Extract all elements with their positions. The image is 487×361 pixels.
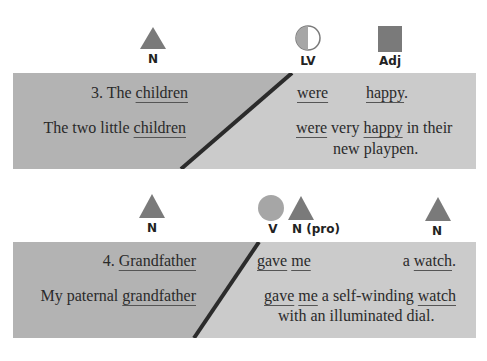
noun-watch: watch xyxy=(418,287,456,304)
verb-gave: gave xyxy=(257,252,287,269)
verb-circle-icon xyxy=(257,194,285,222)
example-3-predicate-long: were very happy in their xyxy=(296,119,452,137)
linking-verb-half-circle-icon xyxy=(294,24,322,52)
example-4-predicate-short: gave me xyxy=(257,252,311,270)
example-3-predicate-short: were xyxy=(297,84,328,102)
example-3-subject-long: The two little children xyxy=(43,119,186,137)
linking-verb-were: were xyxy=(297,84,328,101)
noun-grandfather: grandfather xyxy=(122,287,196,304)
linking-verb-were: were xyxy=(296,119,327,136)
label-adj: Adj xyxy=(374,54,406,68)
noun-triangle-icon xyxy=(139,26,167,50)
label-v: V xyxy=(258,222,288,236)
noun-watch: watch xyxy=(414,252,452,269)
noun-triangle-icon xyxy=(424,196,452,222)
example-3-adjective-short: happy. xyxy=(366,84,408,102)
adjective-happy: happy xyxy=(364,119,403,136)
noun-children: children xyxy=(134,119,186,136)
pronoun-me: me xyxy=(298,287,318,304)
pronoun-me: me xyxy=(291,252,311,269)
noun-children: children xyxy=(136,84,188,101)
example-4-subject-short: 4. Grandfather xyxy=(103,252,196,270)
label-n: N xyxy=(422,224,452,238)
example-4-predicate-long-cont: with an illuminated dial. xyxy=(278,307,434,325)
example-3-predicate-long-cont: new playpen. xyxy=(333,140,418,158)
example-4-object-short: a watch. xyxy=(403,252,456,270)
example-3-subject-short: 3. The children xyxy=(91,84,188,102)
pronoun-triangle-icon xyxy=(287,195,315,221)
adjective-square-icon xyxy=(378,26,402,52)
adjective-happy: happy xyxy=(366,84,404,101)
label-n-pro: N (pro) xyxy=(292,222,344,236)
label-lv: LV xyxy=(293,54,323,68)
verb-gave: gave xyxy=(264,287,294,304)
example-4-predicate-long: gave me a self-winding watch xyxy=(264,287,456,305)
example-4-subject-long: My paternal grandfather xyxy=(41,287,196,305)
label-n: N xyxy=(137,221,167,235)
noun-triangle-icon xyxy=(138,193,166,219)
label-n: N xyxy=(138,52,168,66)
noun-grandfather: Grandfather xyxy=(119,252,196,269)
